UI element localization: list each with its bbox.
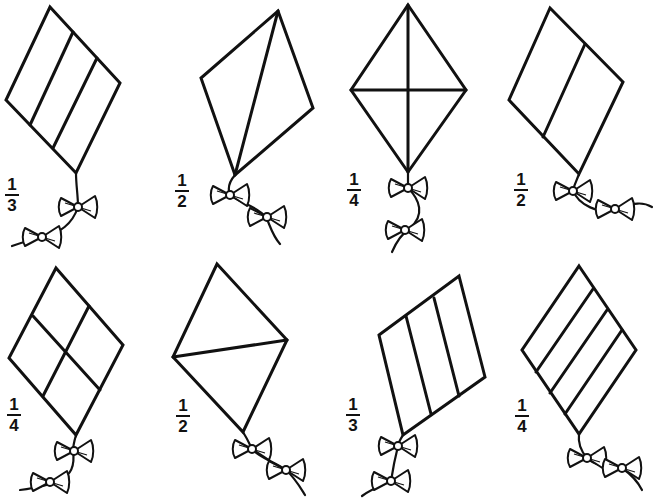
fraction-denominator: 4 <box>347 193 361 209</box>
fraction-numerator: 1 <box>5 177 19 193</box>
bow-icon <box>267 459 306 481</box>
kite-4 <box>509 8 652 220</box>
kite-2 <box>201 11 313 244</box>
fraction-denominator: 3 <box>5 198 19 214</box>
bow-icon <box>248 206 287 228</box>
bow-icon <box>603 457 642 479</box>
fraction-denominator: 2 <box>514 193 528 209</box>
kite-8 <box>522 266 642 490</box>
kite-outline <box>379 276 485 435</box>
kite-3 <box>351 5 466 252</box>
fraction-numerator: 1 <box>347 172 361 188</box>
kite-5 <box>9 268 123 493</box>
fraction-label-8: 14 <box>515 398 529 435</box>
kite-6 <box>173 264 305 495</box>
bow-icon <box>379 435 418 457</box>
bow-icon <box>386 219 425 241</box>
fraction-label-1: 13 <box>5 177 19 214</box>
kite-7 <box>362 276 485 496</box>
fraction-denominator: 4 <box>7 418 21 434</box>
fraction-numerator: 1 <box>7 397 21 413</box>
fraction-label-5: 14 <box>7 397 21 434</box>
fraction-denominator: 2 <box>176 419 190 435</box>
bow-icon <box>23 226 62 248</box>
fraction-numerator: 1 <box>346 397 360 413</box>
kite-1 <box>6 7 120 248</box>
fraction-label-3: 14 <box>347 172 361 209</box>
bow-icon <box>372 470 411 492</box>
fraction-denominator: 2 <box>175 194 189 210</box>
bow-icon <box>596 198 635 220</box>
bow-icon <box>31 471 70 493</box>
bow-icon <box>233 438 272 460</box>
fraction-denominator: 3 <box>346 418 360 434</box>
fraction-numerator: 1 <box>514 172 528 188</box>
fraction-label-2: 12 <box>175 173 189 210</box>
fraction-numerator: 1 <box>176 398 190 414</box>
fraction-denominator: 4 <box>515 419 529 435</box>
fraction-label-4: 12 <box>514 172 528 209</box>
fraction-label-7: 13 <box>346 397 360 434</box>
bow-icon <box>568 447 607 469</box>
fraction-numerator: 1 <box>175 173 189 189</box>
bow-icon <box>554 180 593 202</box>
kite-outline <box>509 8 623 174</box>
kite-worksheet <box>0 0 656 501</box>
fraction-numerator: 1 <box>515 398 529 414</box>
fraction-label-6: 12 <box>176 398 190 435</box>
kite-outline <box>6 7 120 173</box>
